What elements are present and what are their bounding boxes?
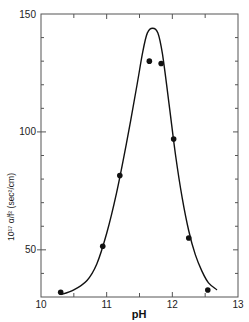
x-tick-label: 10 — [35, 299, 47, 310]
data-point — [186, 235, 192, 241]
y-axis-title: 10¹⁷ α/f² (sec²/cm) — [6, 173, 16, 241]
axis-ticks — [37, 14, 238, 297]
x-tick-label: 11 — [101, 299, 112, 310]
x-tick-label: 13 — [232, 299, 244, 310]
x-tick-label: 12 — [167, 299, 179, 310]
plot-frame — [41, 14, 238, 297]
fit-curve — [61, 28, 217, 294]
data-point — [58, 289, 64, 295]
data-point — [100, 243, 106, 249]
chart: 1011121350100150 pH 10¹⁷ α/f² (sec²/cm) — [0, 0, 249, 322]
data-point — [171, 136, 177, 142]
x-axis-title: pH — [132, 308, 147, 320]
data-point — [158, 61, 164, 67]
tick-labels: 1011121350100150 — [19, 9, 244, 311]
y-tick-label: 150 — [19, 9, 36, 20]
data-points — [58, 58, 211, 295]
y-tick-label: 50 — [25, 244, 37, 255]
data-point — [205, 287, 211, 293]
y-tick-label: 100 — [19, 126, 36, 137]
data-point — [117, 173, 123, 179]
data-point — [147, 58, 153, 64]
